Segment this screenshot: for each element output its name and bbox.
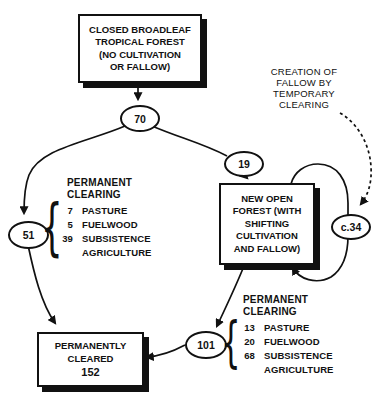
right-clearing-title: PERMANENT CLEARING — [243, 294, 308, 317]
left-clearing-title: PERMANENT CLEARING — [67, 177, 132, 200]
arrow-101-to-cleared — [147, 345, 185, 357]
dashed-arrow-fallow-creation — [340, 113, 371, 204]
flow-oval-19: 19 — [224, 151, 264, 177]
closed-forest-box: CLOSED BROADLEAF TROPICAL FOREST (NO CUL… — [78, 14, 202, 83]
flow-value-c34: c.34 — [341, 221, 361, 233]
permanently-cleared-box: PERMANENTLY CLEARED 152 — [37, 332, 144, 387]
open-forest-box: NEW OPEN FOREST (WITH SHIFTING CULTIVATI… — [219, 183, 315, 265]
permanently-cleared-total: 152 — [81, 365, 99, 379]
clearing-label: PASTURE — [82, 204, 158, 218]
clearing-label: SUBSISTENCE AGRICULTURE — [82, 232, 158, 260]
clearing-label: SUBSISTENCE AGRICULTURE — [264, 349, 340, 377]
clearing-amount: 39 — [55, 232, 73, 260]
clearing-label: FUELWOOD — [264, 335, 340, 349]
flow-value-70: 70 — [134, 113, 146, 125]
left-clearing-list: 7 PASTURE 5 FUELWOOD 39 SUBSISTENCE AGRI… — [55, 204, 158, 260]
flow-value-19: 19 — [238, 158, 250, 170]
clearing-amount: 68 — [237, 349, 255, 377]
flow-value-51: 51 — [23, 229, 35, 241]
permanently-cleared-label: PERMANENTLY CLEARED — [55, 340, 126, 365]
land-use-flow-diagram: CLOSED BROADLEAF TROPICAL FOREST (NO CUL… — [0, 0, 377, 397]
flow-oval-70: 70 — [120, 105, 160, 132]
open-forest-label: NEW OPEN FOREST (WITH SHIFTING CULTIVATI… — [233, 193, 302, 256]
flow-oval-c34: c.34 — [331, 214, 371, 240]
clearing-amount: 7 — [55, 204, 73, 218]
clearing-amount: 5 — [55, 218, 73, 232]
creation-of-fallow-label: CREATION OF FALLOW BY TEMPORARY CLEARING — [256, 66, 352, 110]
clearing-label: FUELWOOD — [82, 218, 158, 232]
clearing-label: PASTURE — [264, 321, 340, 335]
closed-forest-label: CLOSED BROADLEAF TROPICAL FOREST (NO CUL… — [89, 24, 191, 74]
curve-70-to-19 — [152, 126, 227, 156]
flow-value-101: 101 — [197, 339, 215, 351]
clearing-amount: 20 — [237, 335, 255, 349]
clearing-amount: 13 — [237, 321, 255, 335]
right-clearing-list: 13 PASTURE 20 FUELWOOD 68 SUBSISTENCE AG… — [237, 321, 340, 377]
